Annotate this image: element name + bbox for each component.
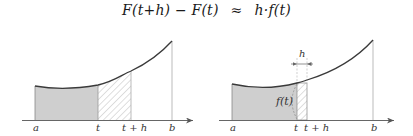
right-label-f-t: f(t) xyxy=(275,95,293,108)
right-hatched-rectangle xyxy=(297,83,307,120)
right-panel: h f(t) a t t + h b xyxy=(219,40,394,133)
right-label-t-plus-h: t + h xyxy=(304,122,329,133)
left-label-a: a xyxy=(33,122,39,133)
left-panel: a t t + h b xyxy=(22,41,193,133)
left-label-t: t xyxy=(96,122,101,133)
right-label-t: t xyxy=(294,122,299,133)
left-hatched-area xyxy=(98,71,131,120)
right-label-a: a xyxy=(230,122,236,133)
left-shaded-area xyxy=(35,85,98,120)
left-curve xyxy=(35,41,172,89)
left-label-b: b xyxy=(169,122,175,133)
right-label-b: b xyxy=(371,122,377,133)
integral-diagrams: a t t + h b h f(t) a t t + h b xyxy=(0,0,413,136)
right-label-h: h xyxy=(299,48,305,59)
left-label-t-plus-h: t + h xyxy=(122,122,147,133)
